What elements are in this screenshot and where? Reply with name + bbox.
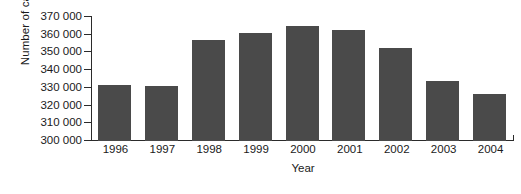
y-axis-tick-label: 320 000 xyxy=(40,99,82,110)
bar xyxy=(98,85,131,141)
y-axis-tick-mark xyxy=(84,69,91,70)
bar xyxy=(473,94,506,141)
bar xyxy=(239,33,272,141)
x-axis-tick-labels: 199619971998199920002001200220032004 xyxy=(92,143,514,159)
x-axis-tick-label: 2000 xyxy=(280,143,327,155)
x-axis-tick-label: 2002 xyxy=(373,143,420,155)
x-axis-tick-label: 2001 xyxy=(326,143,373,155)
bar xyxy=(145,86,178,141)
x-axis-tick-label: 1997 xyxy=(139,143,186,155)
x-axis-tick-label: 1996 xyxy=(92,143,139,155)
x-axis-tick-label: 1998 xyxy=(186,143,233,155)
bar xyxy=(192,40,225,141)
y-axis-tick-labels: 370 000360 000350 000340 000330 000320 0… xyxy=(28,0,82,194)
bar xyxy=(332,30,365,141)
y-axis-tick-label: 330 000 xyxy=(40,81,82,92)
x-axis-tick-label: 2004 xyxy=(467,143,514,155)
y-axis-tick-mark xyxy=(84,16,91,17)
y-axis-tick-label: 300 000 xyxy=(40,135,82,146)
y-axis-tick-mark xyxy=(84,34,91,35)
bar xyxy=(379,48,412,141)
y-axis-tick-mark xyxy=(84,140,91,141)
y-axis-tick-mark xyxy=(84,122,91,123)
y-axis-tick-mark xyxy=(84,51,91,52)
y-axis-tick-mark xyxy=(84,87,91,88)
y-axis-tick-label: 370 000 xyxy=(40,11,82,22)
y-axis-tick-label: 350 000 xyxy=(40,46,82,57)
y-axis-tick-label: 340 000 xyxy=(40,64,82,75)
y-axis-tick-mark xyxy=(84,105,91,106)
x-axis-tick-label: 1999 xyxy=(233,143,280,155)
plot-area xyxy=(92,0,514,141)
x-axis-tick-label: 2003 xyxy=(420,143,467,155)
bar-chart: Number of cases 370 000360 000350 000340… xyxy=(0,0,521,194)
y-axis-tick-label: 310 000 xyxy=(40,117,82,128)
bar xyxy=(286,26,319,141)
x-axis-title: Year xyxy=(92,162,514,174)
y-axis-tick-label: 360 000 xyxy=(40,28,82,39)
bar xyxy=(426,81,459,141)
